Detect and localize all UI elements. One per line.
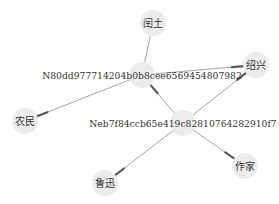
arrowhead-luxun: [115, 168, 125, 175]
node-label-neb7f: Neb7f84ccb65e419c82810764282910f7: [89, 118, 277, 129]
node-label-luxun: 鲁迅: [95, 177, 115, 189]
graph-canvas: 闰土N80dd977714204b0b8cee6569454807982绍兴农民…: [0, 0, 279, 204]
node-label-runtu: 闰土: [143, 17, 163, 29]
node-label-shaoxing: 绍兴: [246, 59, 266, 71]
network-graph: 闰土N80dd977714204b0b8cee6569454807982绍兴农民…: [0, 0, 279, 204]
edges-layer: [36, 35, 246, 176]
arrowhead-nongmin: [36, 112, 47, 116]
node-label-n80dd: N80dd977714204b0b8cee6569454807982: [42, 70, 242, 81]
labels-layer: 闰土N80dd977714204b0b8cee6569454807982绍兴农民…: [15, 17, 277, 189]
node-label-nongmin: 农民: [15, 115, 35, 127]
node-label-zuojia: 作家: [235, 160, 255, 172]
nodes-layer: [12, 10, 269, 196]
arrowhead-n80dd: [150, 84, 158, 93]
arrowhead-zuojia: [225, 152, 235, 159]
arrowhead-shaoxing: [232, 66, 244, 67]
edge-n80dd-nongmin: [36, 76, 138, 116]
